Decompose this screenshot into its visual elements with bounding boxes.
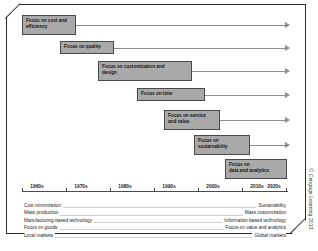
attribute-to: Mass customization <box>243 210 286 216</box>
stage-arrow-line-6 <box>248 145 287 146</box>
stage-box-line-2: design <box>102 70 188 76</box>
copyright-text: © Cengage Learning 2013 <box>308 168 314 229</box>
decade-label-1990s: 1990s <box>157 184 181 189</box>
axis-tick-2000s <box>198 188 199 191</box>
axis-tick-1970s <box>66 188 67 191</box>
stage-arrowhead-3 <box>285 68 290 74</box>
decade-label-1970s: 1970s <box>69 184 93 189</box>
leader-line <box>24 207 286 208</box>
stage-arrowhead-2 <box>285 45 290 51</box>
attribute-from: Local markets <box>24 233 55 239</box>
axis-tick-1990s <box>154 188 155 191</box>
stage-box-line-1: Focus on time <box>141 91 201 97</box>
stage-arrow-line-4 <box>203 95 287 96</box>
stage-box-data-analytics[interactable]: Focus on data and analytics <box>225 159 287 179</box>
axis-tick-1960s <box>22 188 23 191</box>
attribute-shift-row: Local markets Global markets <box>24 233 286 240</box>
decade-label-1960s: 1960s <box>25 184 49 189</box>
attribute-from: Manufacturing-based technology <box>24 218 94 224</box>
stage-box-quality[interactable]: Focus on quality <box>60 41 114 54</box>
axis-line <box>22 191 288 192</box>
attribute-shift-row: Manufacturing-based technology Informati… <box>24 218 286 225</box>
stage-arrowhead-5 <box>285 117 290 123</box>
stage-box-line-2: data and analytics <box>229 168 283 174</box>
leader-line <box>24 237 286 238</box>
figure-frame <box>6 4 306 234</box>
axis-tick-2020s <box>286 188 287 191</box>
stage-arrowhead-1 <box>285 22 290 28</box>
attribute-shift-row: Cost minimization Sustainability <box>24 203 286 210</box>
stage-box-sustainability[interactable]: Focus on sustainability <box>194 135 250 155</box>
decade-label-2020s: 2020s <box>262 184 286 189</box>
attribute-from: Mass production <box>24 210 60 216</box>
stage-arrow-line-1 <box>74 25 287 26</box>
attribute-to: Global markets <box>252 233 286 239</box>
axis-tick-1980s <box>110 188 111 191</box>
attribute-to: Focus on value and analytics <box>224 225 286 231</box>
stage-box-line-2: efficiency <box>26 24 72 30</box>
stage-arrow-line-2 <box>112 48 287 49</box>
attribute-shift-row: Focus on goods Focus on value and analyt… <box>24 225 286 232</box>
stage-box-line-2: sustainability <box>198 144 246 150</box>
stage-box-cost-efficiency[interactable]: Focus on cost and efficiency <box>22 15 76 35</box>
stage-box-customization-design[interactable]: Focus on customization and design <box>98 61 192 81</box>
stage-arrowhead-6 <box>285 142 290 148</box>
attribute-from: Cost minimization <box>24 203 63 209</box>
axis-tick-2010s <box>242 188 243 191</box>
figure-root: Focus on cost and efficiency Focus on qu… <box>0 0 318 251</box>
stage-arrow-line-5 <box>218 120 287 121</box>
copyright-credit: © Cengage Learning 2013 <box>306 151 316 247</box>
attribute-from: Focus on goods <box>24 225 59 231</box>
attribute-shift-row: Mass production Mass customization <box>24 210 286 217</box>
attribute-shift-list: Cost minimization Sustainability Mass pr… <box>24 203 286 240</box>
attribute-to: Information-based technology <box>222 218 286 224</box>
stage-arrowhead-4 <box>285 92 290 98</box>
decade-label-1980s: 1980s <box>113 184 137 189</box>
attribute-to: Sustainability <box>256 203 286 209</box>
stage-box-line-2: and value <box>168 119 216 125</box>
decade-label-2000s: 2000s <box>201 184 225 189</box>
stage-arrow-line-3 <box>190 71 287 72</box>
stage-box-service-value[interactable]: Focus on service and value <box>164 110 220 130</box>
stage-box-line-1: Focus on quality <box>64 44 110 50</box>
stage-box-time[interactable]: Focus on time <box>137 88 205 101</box>
